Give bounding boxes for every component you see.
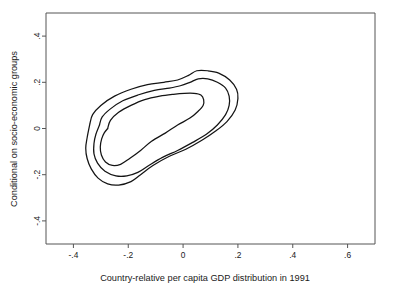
y-tick-label: -.2 bbox=[32, 169, 42, 179]
y-tick-label: .2 bbox=[32, 78, 42, 85]
y-tick-label: .4 bbox=[32, 32, 42, 39]
x-tick-label: 0 bbox=[181, 250, 186, 260]
x-axis-title: Country-relative per capita GDP distribu… bbox=[100, 273, 310, 283]
y-axis-title: Conditional on socio-economic groups bbox=[9, 51, 19, 207]
y-tick-label: -.4 bbox=[32, 216, 42, 226]
x-tick-label: -.4 bbox=[69, 250, 79, 260]
chart-canvas: -.4-.20.2.4.6 .4.20-.2-.4 Country-relati… bbox=[0, 0, 393, 296]
x-tick-label: .4 bbox=[289, 250, 296, 260]
y-tick-label: 0 bbox=[32, 126, 42, 131]
contour-plot-figure: -.4-.20.2.4.6 .4.20-.2-.4 Country-relati… bbox=[0, 0, 393, 296]
x-tick-label: -.2 bbox=[123, 250, 133, 260]
x-tick-label: .6 bbox=[344, 250, 351, 260]
x-tick-label: .2 bbox=[234, 250, 241, 260]
figure-background bbox=[0, 0, 393, 296]
